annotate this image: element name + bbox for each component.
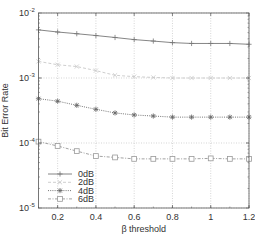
y-tick-label: 10 bbox=[19, 138, 29, 148]
y-tick-label: 10 bbox=[19, 203, 29, 213]
x-tick-label: 0.2 bbox=[51, 212, 64, 222]
y-tick-label: 10 bbox=[19, 8, 29, 18]
x-axis-title: β threshold bbox=[121, 224, 166, 234]
y-tick-exponent: -2 bbox=[30, 7, 36, 13]
axis-ticks bbox=[39, 13, 250, 208]
y-tick-labels: 10-510-410-310-2 bbox=[19, 7, 36, 213]
series-2dB bbox=[36, 59, 251, 80]
plot-frame bbox=[39, 13, 250, 208]
y-tick-exponent: -4 bbox=[30, 137, 36, 143]
y-tick-exponent: -5 bbox=[30, 202, 36, 208]
x-tick-label: 0.6 bbox=[128, 212, 141, 222]
ber-chart: 0.20.40.60.811.2 10-510-410-310-2 β thre… bbox=[0, 0, 255, 234]
x-tick-labels: 0.20.40.60.811.2 bbox=[51, 212, 255, 222]
legend: 0dB2dB4dB6dB bbox=[48, 169, 94, 204]
series-4dB bbox=[36, 96, 252, 120]
x-tick-label: 0.8 bbox=[166, 212, 179, 222]
x-tick-label: 1 bbox=[208, 212, 213, 222]
series-6dB bbox=[36, 139, 251, 161]
y-tick-exponent: -3 bbox=[30, 72, 36, 78]
y-tick-label: 10 bbox=[19, 73, 29, 83]
grid-lines bbox=[39, 13, 250, 208]
legend-label: 6dB bbox=[78, 194, 94, 204]
x-tick-label: 0.4 bbox=[90, 212, 103, 222]
legend-item-6dB: 6dB bbox=[48, 194, 94, 204]
x-tick-label: 1.2 bbox=[243, 212, 255, 222]
series-0dB bbox=[36, 27, 252, 47]
y-axis-title: Bit Error Rate bbox=[0, 83, 10, 138]
data-series bbox=[36, 27, 252, 161]
